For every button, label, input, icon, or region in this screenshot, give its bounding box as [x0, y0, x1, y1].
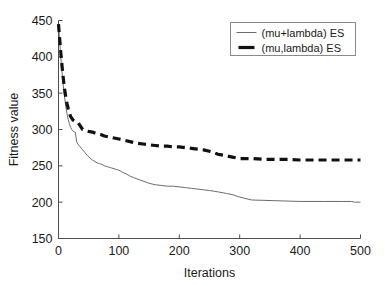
x-tick-label: 0: [55, 244, 62, 258]
y-tick-label: 200: [32, 196, 53, 210]
y-tick-label: 250: [32, 159, 53, 173]
line-chart: 150200250300350400450 0100200300400500 I…: [0, 0, 391, 285]
y-axis-title: Fitness value: [7, 93, 21, 167]
y-tick-label: 400: [32, 50, 53, 64]
x-tick-label: 300: [229, 244, 250, 258]
x-tick-label: 500: [350, 244, 371, 258]
y-tick-label: 300: [32, 123, 53, 137]
legend-label: (mu,lambda) ES: [262, 42, 341, 54]
x-tick-label: 100: [108, 244, 129, 258]
chart-legend[interactable]: (mu+lambda) ES(mu,lambda) ES: [231, 23, 356, 56]
legend-label: (mu+lambda) ES: [262, 27, 345, 39]
chart-figure: 150200250300350400450 0100200300400500 I…: [0, 0, 391, 285]
x-axis-title: Iterations: [184, 266, 235, 280]
y-tick-label: 150: [32, 232, 53, 246]
x-tick-label: 400: [290, 244, 311, 258]
y-tick-label: 450: [32, 14, 53, 28]
x-tick-label: 200: [169, 244, 190, 258]
y-tick-label: 350: [32, 87, 53, 101]
